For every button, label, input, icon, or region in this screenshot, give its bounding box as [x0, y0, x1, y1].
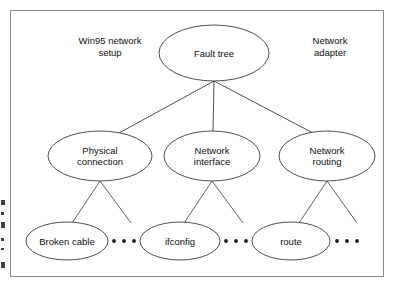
node-physical-connection[interactable] [48, 131, 152, 181]
margin-mark-6 [1, 262, 5, 268]
margin-mark-4 [1, 238, 4, 241]
margin-mark-2 [1, 212, 4, 215]
ellipsis-dot [345, 239, 349, 243]
ellipsis-dot [132, 239, 136, 243]
edge-root-physical [119, 81, 214, 133]
left-annotation: Win95 network setup [79, 35, 142, 58]
ellipsis-dot [234, 239, 238, 243]
figure-canvas: Fault treePhysical connectionNetwork int… [0, 0, 397, 290]
node-ifconfig[interactable] [140, 222, 220, 260]
edge-interface-ifconfig [184, 181, 212, 223]
ellipsis-after-broken-cable [112, 239, 136, 243]
right-annotation: Network adapter [313, 35, 348, 58]
ellipsis-after-route [335, 239, 359, 243]
edge-routing-more [327, 181, 357, 223]
margin-mark-1 [1, 200, 5, 205]
node-network-routing[interactable] [279, 131, 375, 181]
ellipsis-dot [224, 239, 228, 243]
edge-root-interface [213, 81, 214, 131]
ellipsis-dot [244, 239, 248, 243]
ellipsis-after-ifconfig [224, 239, 248, 243]
node-layer [26, 25, 375, 260]
ellipsis-dot [112, 239, 116, 243]
edge-interface-more [212, 181, 243, 223]
node-route[interactable] [252, 222, 330, 260]
ellipsis-dot [122, 239, 126, 243]
margin-mark-3 [1, 222, 5, 228]
node-network-interface[interactable] [164, 131, 260, 181]
edge-physical-broken [72, 181, 100, 223]
edge-root-routing [214, 81, 313, 133]
node-fault-tree[interactable] [159, 25, 269, 81]
node-broken-cable[interactable] [26, 222, 108, 260]
edge-routing-route [299, 181, 327, 223]
edge-physical-more [100, 181, 131, 223]
ellipsis-dot [335, 239, 339, 243]
margin-mark-5 [1, 248, 4, 250]
ellipsis-dot [355, 239, 359, 243]
